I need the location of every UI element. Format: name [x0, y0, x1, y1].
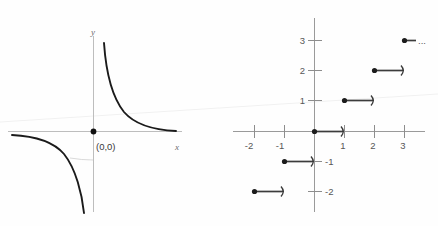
y-tick-label-1: 1: [300, 95, 305, 106]
x-tick-label-minus1: -1: [276, 140, 284, 151]
figure-svg: y x (0,0) -2 -1 1 2: [0, 0, 438, 226]
step-segment-y-minus1: [282, 157, 314, 167]
step-continuation-ellipsis: ...: [418, 35, 426, 46]
y-tick-label-minus1: -1: [325, 156, 333, 167]
x-tick-label-minus2: -2: [245, 140, 253, 151]
closed-endpoint-y-1: [342, 98, 347, 103]
step-segment-y-0: [312, 127, 344, 137]
left-curve-branch-lower-left: [12, 135, 84, 213]
step-segment-y-3: ...: [402, 35, 426, 46]
left-y-axis-label: y: [90, 27, 95, 37]
left-faint-wisp: [70, 158, 93, 160]
figure-canvas: y x (0,0) -2 -1 1 2: [0, 0, 438, 226]
x-tick-label-2: 2: [370, 140, 375, 151]
step-segment-y-minus2: [252, 187, 284, 197]
left-x-axis-label: x: [174, 142, 179, 152]
closed-endpoint-y-3: [402, 38, 407, 43]
closed-endpoint-y-0: [312, 129, 317, 134]
closed-endpoint-y-minus2: [252, 189, 257, 194]
left-curve-branch-upper-right: [104, 43, 176, 131]
x-tick-label-3: 3: [400, 140, 405, 151]
y-tick-label-minus2: -2: [325, 186, 333, 197]
right-panel: -2 -1 1 2 3 3 2 1 -1 -2: [233, 18, 426, 212]
y-tick-label-3: 3: [300, 35, 305, 46]
step-segment-y-1: [342, 96, 374, 106]
origin-point-marker: [91, 129, 97, 135]
x-tick-label-1: 1: [340, 140, 345, 151]
closed-endpoint-y-minus1: [282, 159, 287, 164]
closed-endpoint-y-2: [372, 68, 377, 73]
origin-point-label: (0,0): [96, 141, 116, 152]
step-segment-y-2: [372, 66, 404, 76]
y-tick-label-2: 2: [300, 65, 305, 76]
